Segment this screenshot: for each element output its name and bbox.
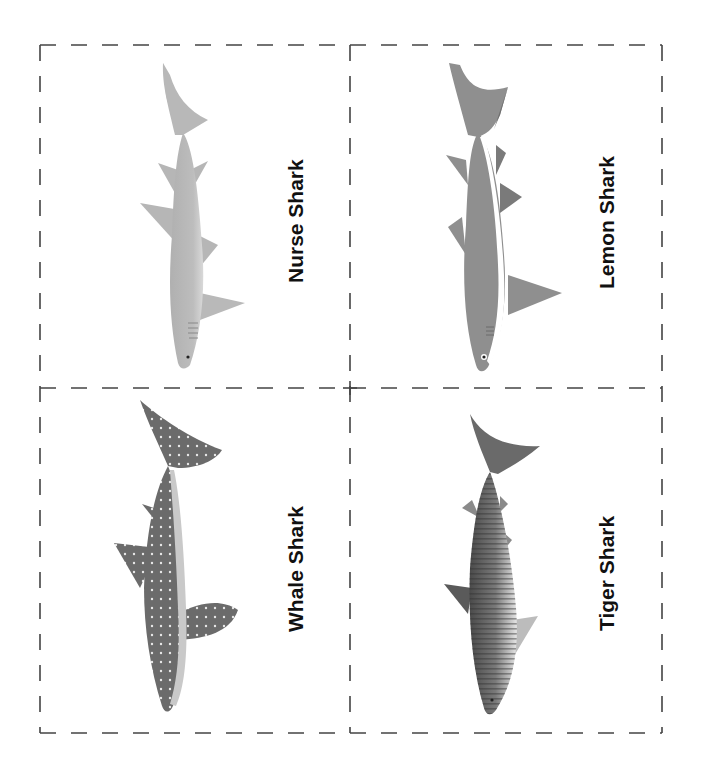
- card-label: Lemon Shark: [595, 156, 619, 289]
- card-label: Tiger Shark: [595, 516, 619, 631]
- card-tiger-shark: Tiger Shark: [350, 388, 662, 733]
- card-label: Nurse Shark: [284, 159, 308, 283]
- card-label: Whale Shark: [284, 506, 308, 632]
- card-lemon-shark: Lemon Shark: [350, 45, 662, 388]
- card-nurse-shark: Nurse Shark: [40, 45, 350, 388]
- card-whale-shark: Whale Shark: [40, 388, 350, 733]
- shark-card-sheet: Nurse Shark Lemon Shark: [0, 0, 701, 772]
